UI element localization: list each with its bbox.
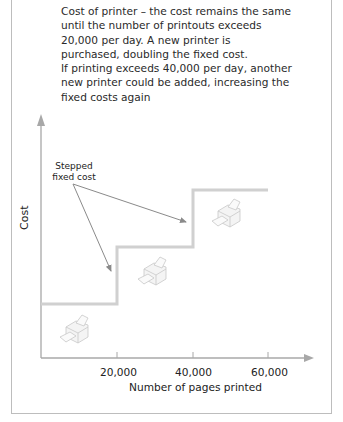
stepped-cost-chart: [0, 0, 343, 422]
x-tick-20000: 20,000: [100, 366, 137, 378]
printer-icon: [212, 199, 240, 227]
y-axis-label: Cost: [18, 206, 31, 230]
y-axis-arrow-icon: [37, 114, 45, 126]
x-axis-label: Number of pages printed: [129, 381, 262, 393]
x-tick-40000: 40,000: [175, 366, 212, 378]
x-tick-60000: 60,000: [251, 366, 288, 378]
x-axis-arrow-icon: [304, 354, 314, 362]
printer-icon: [138, 257, 166, 285]
printer-icon: [60, 315, 88, 343]
stepped-fixed-cost-label: Stepped fixed cost: [48, 161, 100, 183]
